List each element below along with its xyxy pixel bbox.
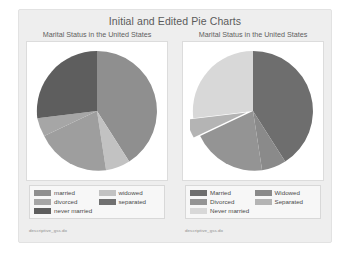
legend-swatch-icon	[34, 199, 51, 205]
legend-swatch-icon	[34, 208, 51, 214]
legend-item-married[interactable]: Married	[190, 189, 252, 197]
legend-item-never-married[interactable]: Never married	[190, 207, 252, 215]
legend-swatch-icon	[34, 190, 51, 196]
legend-item-divorced[interactable]: Divorced	[190, 198, 252, 206]
legend-swatch-icon	[190, 199, 207, 205]
pie-svg-edited	[190, 48, 316, 174]
legend-label: widowed	[119, 189, 143, 197]
panel-subtitle: Marital Status in the United States	[175, 30, 331, 39]
legend-label: Married	[210, 189, 231, 197]
legend-swatch-icon	[255, 199, 272, 205]
legend-label: Widowed	[275, 189, 300, 197]
pie-slice-never-married	[193, 51, 253, 118]
page-title: Initial and Edited Pie Charts	[19, 15, 331, 27]
footnote-initial: descriptive_gss.do	[29, 228, 67, 233]
legend-swatch-icon	[99, 190, 116, 196]
screenshot-root: Initial and Edited Pie Charts Marital St…	[0, 0, 350, 254]
legend-item-widowed[interactable]: widowed	[99, 189, 161, 197]
legend-edited: Married Divorced Never married Wido	[185, 185, 321, 219]
legend-swatch-icon	[190, 190, 207, 196]
legend-item-widowed[interactable]: Widowed	[255, 189, 317, 197]
plot-area-edited	[182, 41, 324, 181]
legend-label: divorced	[54, 198, 77, 206]
panel-container: Marital Status in the United States	[19, 29, 331, 241]
legend-swatch-icon	[99, 199, 116, 205]
chart-card: Initial and Edited Pie Charts Marital St…	[18, 9, 332, 243]
pie-svg-initial	[34, 48, 160, 174]
pie-chart-initial	[27, 42, 167, 180]
legend-label: never married	[54, 207, 92, 215]
footnote-edited: descriptive_gss.do	[185, 228, 223, 233]
plot-area-initial	[26, 41, 168, 181]
legend-initial: married divorced never married wido	[29, 185, 165, 219]
legend-label: Never married	[210, 207, 249, 215]
panel-edited: Marital Status in the United States	[175, 29, 331, 241]
legend-item-married[interactable]: married	[34, 189, 96, 197]
legend-item-separated[interactable]: Separated	[255, 198, 317, 206]
legend-grid: Married Divorced Never married Wido	[190, 189, 316, 215]
legend-label: married	[54, 189, 75, 197]
legend-label: Separated	[275, 198, 304, 206]
pie-chart-edited	[183, 42, 323, 180]
legend-item-separated[interactable]: separated	[99, 198, 161, 206]
legend-grid: married divorced never married wido	[34, 189, 160, 215]
legend-label: separated	[119, 198, 147, 206]
legend-swatch-icon	[255, 190, 272, 196]
legend-item-never-married[interactable]: never married	[34, 207, 96, 215]
legend-label: Divorced	[210, 198, 234, 206]
legend-item-divorced[interactable]: divorced	[34, 198, 96, 206]
legend-swatch-icon	[190, 208, 207, 214]
pie-slice-never-married	[37, 51, 97, 118]
panel-initial: Marital Status in the United States	[19, 29, 175, 241]
panel-subtitle: Marital Status in the United States	[19, 30, 175, 39]
